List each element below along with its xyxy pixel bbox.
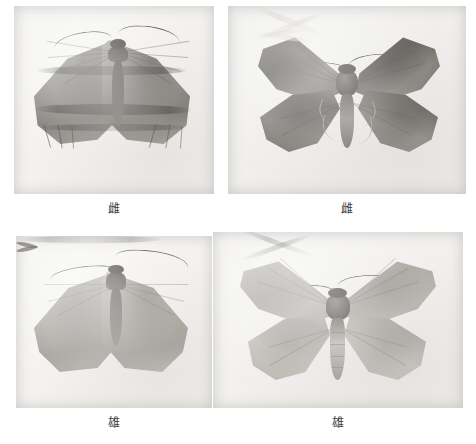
head — [108, 265, 124, 274]
moth-illustration-spread-female — [252, 18, 442, 168]
abdomen — [330, 318, 345, 380]
figure-bottom-left: 雄 — [16, 236, 212, 436]
head — [328, 288, 347, 298]
figure-top-left: 雌 — [14, 6, 214, 224]
caption-top-right: 雌 — [228, 202, 466, 216]
abdomen — [110, 288, 122, 346]
forewing-band-right — [239, 232, 312, 263]
leg — [320, 114, 348, 141]
caption-bottom-left: 雄 — [16, 416, 212, 430]
photo-top-left — [14, 6, 214, 194]
photo-bottom-left — [16, 236, 212, 408]
figure-bottom-right: 雄 — [213, 232, 463, 436]
caption-top-left: 雌 — [14, 202, 214, 216]
caption-bottom-right: 雄 — [213, 416, 463, 430]
hindwing-left — [248, 314, 330, 380]
moth-illustration-spread-male — [238, 240, 438, 394]
antenna-right — [116, 249, 189, 274]
photo-top-right — [228, 6, 466, 194]
photo-bottom-right — [213, 232, 463, 408]
head — [338, 64, 356, 74]
discal-spot-right — [16, 245, 38, 253]
head — [110, 39, 126, 49]
specimen-plate: 雌 — [0, 0, 476, 444]
abdomen — [112, 60, 124, 126]
leg — [346, 116, 374, 145]
moth-illustration-folded-female — [14, 6, 214, 194]
moth-illustration-folded-male — [16, 236, 212, 408]
hindwing-right — [344, 314, 426, 380]
wing-band-median — [16, 236, 164, 243]
figure-top-right: 雌 — [228, 6, 466, 224]
